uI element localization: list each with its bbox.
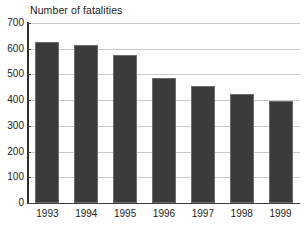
y-tick-mark [28, 203, 31, 204]
bar [74, 45, 98, 203]
gridline [28, 74, 300, 75]
y-tick-label: 200 [7, 147, 24, 157]
y-tick-label: 300 [7, 121, 24, 131]
bar [113, 55, 137, 203]
bar [35, 42, 59, 203]
x-tick-label: 1998 [222, 208, 261, 219]
x-tick-label: 1996 [145, 208, 184, 219]
gridline [28, 49, 300, 50]
gridline [28, 23, 300, 24]
x-tick-label: 1994 [67, 208, 106, 219]
bar-chart: Number of fatalities 7006005004003002001… [0, 0, 306, 239]
x-tick-label: 1997 [183, 208, 222, 219]
x-tick-label: 1999 [261, 208, 300, 219]
y-tick-label: 600 [7, 44, 24, 54]
bar [230, 94, 254, 203]
y-tick-mark [28, 23, 31, 24]
y-tick-label: 400 [7, 95, 24, 105]
bar [191, 86, 215, 203]
x-tick-label: 1993 [28, 208, 67, 219]
plot-area [28, 23, 300, 203]
y-tick-mark [28, 74, 31, 75]
y-tick-label: 500 [7, 69, 24, 79]
y-tick-label: 700 [7, 18, 24, 28]
y-tick-mark [28, 177, 31, 178]
chart-title: Number of fatalities [30, 4, 122, 16]
y-tick-label: 100 [7, 172, 24, 182]
y-tick-mark [28, 126, 31, 127]
y-tick-mark [28, 152, 31, 153]
y-tick-label: 0 [18, 198, 24, 208]
x-tick-label: 1995 [106, 208, 145, 219]
y-tick-mark [28, 100, 31, 101]
bar [269, 101, 293, 203]
bar [152, 78, 176, 203]
y-axis-tick-labels: 7006005004003002001000 [0, 0, 24, 239]
axis-baseline [28, 203, 300, 204]
y-tick-mark [28, 49, 31, 50]
